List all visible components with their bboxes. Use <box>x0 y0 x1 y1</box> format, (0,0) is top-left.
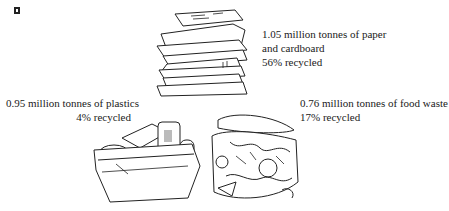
food-waste-pile-icon <box>206 112 304 208</box>
paper-label-line-2: and cardboard <box>262 41 386 55</box>
plastics-tub-icon <box>88 118 210 208</box>
paper-label: 1.05 million tonnes of paper and cardboa… <box>262 27 386 69</box>
plastics-label: 0.95 million tonnes of plastics 4% recyc… <box>6 96 131 124</box>
paper-label-line-1: 1.05 million tonnes of paper <box>262 27 386 41</box>
paper-recycled-percent: 56% recycled <box>262 55 386 69</box>
plastics-recycled-percent: 4% recycled <box>6 110 131 124</box>
plastics-label-line-1: 0.95 million tonnes of plastics <box>6 96 131 110</box>
food-label: 0.76 million tonnes of food waste 17% re… <box>300 96 448 124</box>
paper-stack-icon <box>147 6 259 98</box>
food-recycled-percent: 17% recycled <box>300 110 448 124</box>
food-label-line-1: 0.76 million tonnes of food waste <box>300 96 448 110</box>
corner-mark-icon <box>13 1 21 9</box>
